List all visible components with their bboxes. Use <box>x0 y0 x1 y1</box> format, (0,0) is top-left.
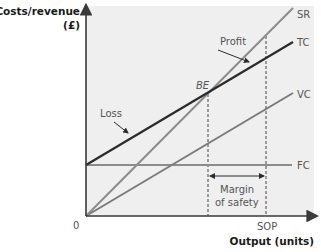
sr-label: SR <box>297 9 310 20</box>
margin-of-safety-label-2: of safety <box>215 197 259 208</box>
break-even-chart: SR TC VC FC BE Profit Loss Margin of saf… <box>0 0 321 252</box>
be-label: BE <box>196 80 210 91</box>
y-axis-title-line2: (£) <box>63 19 80 31</box>
margin-of-safety-label-1: Margin <box>220 184 254 195</box>
x-axis-title: Output (units) <box>229 235 314 247</box>
sop-tick-label: SOP <box>257 221 277 232</box>
origin-label: 0 <box>73 220 79 231</box>
profit-label: Profit <box>220 36 246 47</box>
loss-label: Loss <box>100 108 122 119</box>
fc-label: FC <box>297 160 310 171</box>
y-axis-title-line1: Costs/revenue <box>0 5 80 17</box>
tc-label: TC <box>296 37 310 48</box>
vc-label: VC <box>297 89 311 100</box>
